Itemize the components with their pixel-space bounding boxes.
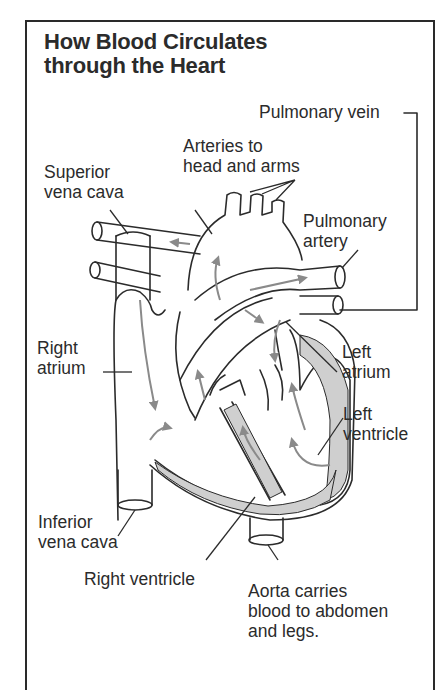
label-pulmonary-artery: Pulmonary artery [303, 211, 387, 251]
label-right-atrium: Right atrium [37, 338, 86, 378]
label-left-atrium: Left atrium [342, 342, 391, 382]
label-left-ventricle: Left ventricle [343, 404, 408, 444]
leader-aorta [268, 545, 278, 560]
label-inferior-vena-cava: Inferior vena cava [38, 512, 118, 552]
label-right-ventricle: Right ventricle [84, 569, 195, 589]
leader-superior-vena-cava [110, 210, 128, 234]
label-aorta: Aorta carries blood to abdomen and legs. [248, 581, 388, 641]
leader-inferior-vena-cava [118, 510, 135, 536]
leader-aorta-arch [195, 210, 212, 234]
label-superior-vena-cava: Superior vena cava [44, 162, 124, 202]
leader-pulmonary-artery [342, 250, 358, 268]
label-pulmonary-vein: Pulmonary vein [259, 102, 380, 122]
leader-arteries-head-arms [250, 180, 295, 200]
label-arteries-head-arms: Arteries to head and arms [183, 136, 300, 176]
